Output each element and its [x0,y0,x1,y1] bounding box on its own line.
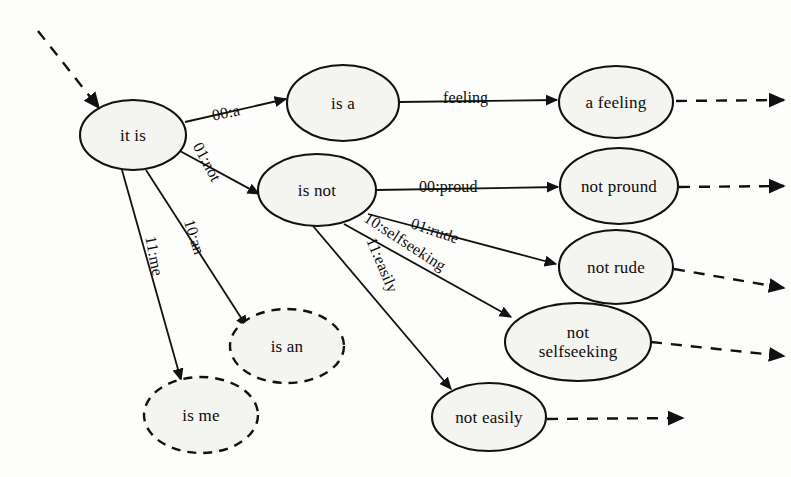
node-not-selfseeking[interactable] [505,303,651,381]
node-not-pround[interactable] [560,148,678,224]
diagram-canvas: 00:a01:not10:an11:mefeeling00:proud01:ru… [0,0,791,477]
edge-entry-to-it-is [38,31,99,108]
node-is-an[interactable] [230,309,344,383]
edge-not-rude-exit [674,269,784,288]
edge-is-a-to-a-feeling [399,100,557,102]
graph-svg [0,0,791,477]
node-is-a[interactable] [287,65,399,141]
edge-a-feeling-exit [676,100,784,101]
node-is-not[interactable] [258,154,376,226]
edge-is-not-to-not-rude [368,214,556,264]
node-not-easily[interactable] [432,383,546,451]
node-is-me[interactable] [144,377,258,453]
nodes-layer [80,65,678,453]
node-a-feeling[interactable] [559,66,673,138]
edge-it-is-to-is-a [185,99,286,122]
edge-not-pround-exit [679,186,784,187]
edge-it-is-to-is-me [122,170,181,380]
edge-it-is-to-is-not [180,151,259,194]
node-not-rude[interactable] [559,230,673,304]
edge-is-not-to-not-selfseek [344,224,511,317]
edge-is-not-to-not-pround [376,187,558,190]
edge-not-easily-exit [547,418,683,419]
edge-not-selfseeking-exit [651,342,784,356]
edge-it-is-to-is-an [146,170,247,327]
edges-layer [38,31,784,419]
node-it-is[interactable] [80,100,186,170]
